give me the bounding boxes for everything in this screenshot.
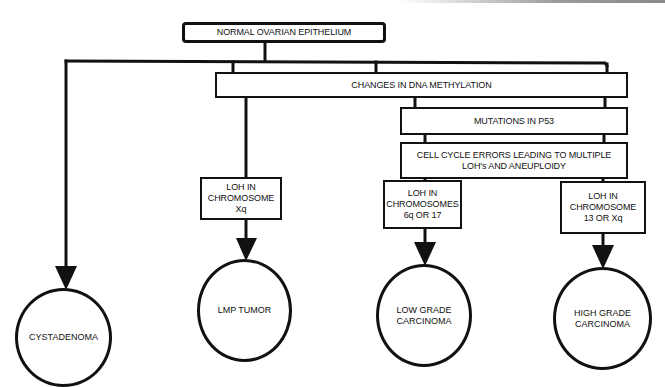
loh-label: LOH IN CHROMOSOMES 6q OR 17	[386, 188, 458, 221]
outcome-high-grade-carcinoma: HIGH GRADE CARCINOMA	[553, 267, 652, 370]
arrow-down-icon	[55, 266, 77, 290]
outcome-lmp-tumor: LMP TUMOR	[197, 259, 292, 362]
outcome-low-grade-carcinoma: LOW GRADE CARCINOMA	[376, 264, 472, 367]
arrow-down-icon	[236, 238, 257, 261]
root-node-label: NORMAL OVARIAN EPITHELIUM	[217, 27, 352, 38]
loh-label: LOH IN CHROMOSOME 13 OR Xq	[570, 191, 637, 224]
outcome-label: LOW GRADE CARCINOMA	[396, 305, 451, 327]
step-dna-methylation: CHANGES IN DNA METHYLATION	[215, 72, 628, 98]
arrow-down-icon	[414, 242, 436, 266]
outcome-label: HIGH GRADE CARCINOMA	[574, 308, 631, 330]
loh-box-6q-or-17: LOH IN CHROMOSOMES 6q OR 17	[383, 180, 462, 229]
step-label: CELL CYCLE ERRORS LEADING TO MULTIPLE LO…	[417, 150, 612, 172]
root-node-normal-ovarian-epithelium: NORMAL OVARIAN EPITHELIUM	[182, 22, 386, 43]
outcome-label: LMP TUMOR	[218, 305, 272, 316]
step-label: CHANGES IN DNA METHYLATION	[351, 80, 491, 91]
loh-box-xq: LOH IN CHROMOSOME Xq	[200, 177, 282, 220]
step-label: MUTATIONS IN P53	[474, 116, 554, 127]
arrow-down-icon	[592, 245, 614, 269]
step-p53-mutations: MUTATIONS IN P53	[400, 107, 628, 135]
arrowheads	[55, 238, 614, 290]
loh-box-13-or-xq: LOH IN CHROMOSOME 13 OR Xq	[560, 181, 646, 234]
outcome-cystadenoma: CYSTADENOMA	[15, 288, 112, 387]
step-cell-cycle-errors: CELL CYCLE ERRORS LEADING TO MULTIPLE LO…	[400, 142, 628, 179]
outcome-label: CYSTADENOMA	[29, 332, 98, 343]
loh-label: LOH IN CHROMOSOME Xq	[208, 182, 275, 215]
